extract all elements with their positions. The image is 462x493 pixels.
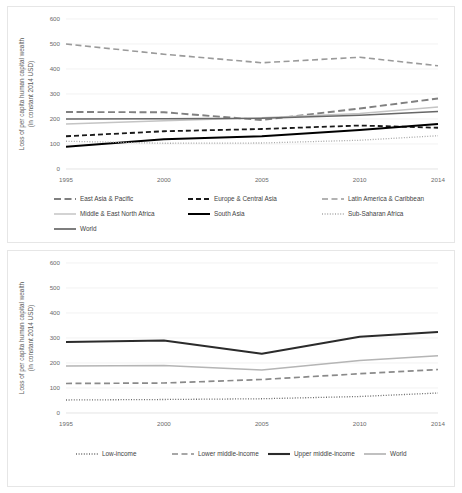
y-axis-title: Loss of per capita human capital wealth bbox=[18, 37, 26, 150]
y-axis-title-units: (in constant 2014 USD) bbox=[27, 305, 35, 371]
legend-label: Low-income bbox=[102, 450, 137, 457]
y-tick-label: 500 bbox=[50, 284, 61, 291]
series-line bbox=[66, 99, 438, 121]
y-tick-label: 600 bbox=[50, 259, 61, 266]
y-tick-label: 0 bbox=[57, 409, 61, 416]
x-tick-label: 2014 bbox=[431, 176, 445, 183]
y-tick-label: 300 bbox=[50, 90, 61, 97]
legend-label: World bbox=[80, 225, 97, 232]
y-tick-label: 400 bbox=[50, 65, 61, 72]
y-tick-label: 100 bbox=[50, 140, 61, 147]
x-tick-label: 2000 bbox=[157, 420, 171, 427]
y-tick-label: 200 bbox=[50, 359, 61, 366]
legend-label: Upper middle-income bbox=[294, 450, 355, 458]
y-tick-label: 0 bbox=[57, 165, 61, 172]
series-line bbox=[66, 107, 438, 124]
line-chart-by-income-group: 010020030040050060019952000200520102014L… bbox=[8, 251, 454, 486]
x-tick-label: 2000 bbox=[157, 176, 171, 183]
x-tick-label: 2005 bbox=[255, 420, 269, 427]
y-tick-label: 200 bbox=[50, 115, 61, 122]
series-line bbox=[66, 124, 438, 147]
legend-label: Latin America & Caribbean bbox=[348, 195, 424, 202]
y-tick-label: 300 bbox=[50, 334, 61, 341]
y-tick-label: 600 bbox=[50, 15, 61, 22]
legend-label: South Asia bbox=[214, 210, 245, 217]
legend-label: Sub-Saharan Africa bbox=[348, 210, 404, 217]
y-tick-label: 400 bbox=[50, 309, 61, 316]
chart-panel-bottom: 010020030040050060019952000200520102014L… bbox=[7, 250, 455, 487]
y-tick-label: 100 bbox=[50, 384, 61, 391]
x-tick-label: 1995 bbox=[59, 420, 73, 427]
legend-label: Europe & Central Asia bbox=[214, 195, 277, 203]
series-line bbox=[66, 126, 438, 137]
y-tick-label: 500 bbox=[50, 40, 61, 47]
legend-label: Lower middle-income bbox=[198, 450, 259, 457]
x-tick-label: 2014 bbox=[431, 420, 445, 427]
series-line bbox=[66, 370, 438, 384]
chart-top-inner: 010020030040050060019952000200520102014L… bbox=[8, 7, 454, 242]
series-line bbox=[66, 44, 438, 66]
x-tick-label: 2005 bbox=[255, 176, 269, 183]
y-axis-title-units: (in constant 2014 USD) bbox=[27, 61, 35, 127]
figure-container: 010020030040050060019952000200520102014L… bbox=[0, 0, 462, 493]
x-tick-label: 2010 bbox=[353, 176, 367, 183]
x-tick-label: 2010 bbox=[353, 420, 367, 427]
line-chart-by-region: 010020030040050060019952000200520102014L… bbox=[8, 7, 454, 242]
x-tick-label: 1995 bbox=[59, 176, 73, 183]
legend-label: World bbox=[390, 450, 407, 457]
chart-bottom-inner: 010020030040050060019952000200520102014L… bbox=[8, 251, 454, 486]
series-line bbox=[66, 393, 438, 400]
legend-label: Middle & East North Africa bbox=[80, 210, 155, 217]
legend-label: East Asia & Pacific bbox=[80, 195, 134, 202]
series-line bbox=[66, 332, 438, 354]
chart-panel-top: 010020030040050060019952000200520102014L… bbox=[7, 6, 455, 243]
y-axis-title: Loss of per capita human capital wealth bbox=[18, 281, 26, 394]
